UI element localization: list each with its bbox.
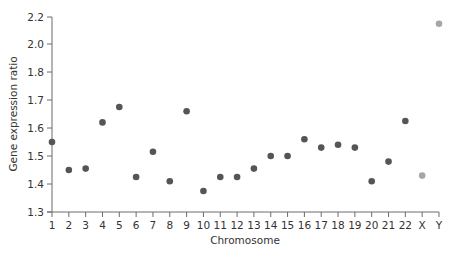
x-tick-label: 15 <box>281 219 294 231</box>
x-tick-label: 2 <box>65 219 72 231</box>
x-tick-label: 19 <box>348 219 361 231</box>
data-point-chr-7 <box>150 149 157 156</box>
x-tick-label: 21 <box>382 219 395 231</box>
y-axis: 1.31.41.51.61.71.82.02.2 <box>27 11 52 218</box>
y-tick-label: 1.5 <box>27 150 44 162</box>
y-axis-title: Gene expression ratio <box>7 56 19 171</box>
x-tick-label: 10 <box>197 219 210 231</box>
x-tick-label: 13 <box>247 219 260 231</box>
x-tick-label: 20 <box>365 219 378 231</box>
x-tick-label: Y <box>435 219 443 231</box>
data-point-chr-9 <box>183 108 190 115</box>
data-point-chr-15 <box>284 153 291 160</box>
data-point-chr-11 <box>217 174 224 181</box>
data-points <box>49 20 443 194</box>
data-point-chr-12 <box>234 174 241 181</box>
x-tick-label: 17 <box>315 219 328 231</box>
data-point-chr-18 <box>335 142 342 149</box>
x-tick-label: 3 <box>82 219 89 231</box>
x-axis: 12345678910111213141516171819202122XY <box>47 212 443 231</box>
y-tick-label: 1.6 <box>27 122 44 134</box>
x-tick-label: 8 <box>166 219 173 231</box>
y-tick-label: 1.7 <box>27 94 44 106</box>
data-point-chr-20 <box>368 178 375 185</box>
y-tick-label: 2.2 <box>27 11 44 23</box>
y-tick-label: 1.3 <box>27 206 44 218</box>
data-point-chr-14 <box>267 153 274 160</box>
y-tick-label: 2.0 <box>27 38 44 50</box>
x-tick-label: X <box>419 219 426 231</box>
data-point-chr-1 <box>49 139 56 146</box>
data-point-chr-4 <box>99 119 106 126</box>
x-axis-title: Chromosome <box>210 234 280 246</box>
data-point-chr-10 <box>200 188 207 195</box>
x-tick-label: 9 <box>183 219 190 231</box>
scatter-chart: 1.31.41.51.61.71.82.02.2 123456789101112… <box>0 0 456 258</box>
x-tick-label: 6 <box>133 219 140 231</box>
data-point-chr-16 <box>301 136 308 143</box>
data-point-chr-13 <box>251 165 258 172</box>
data-point-chr-17 <box>318 144 325 151</box>
data-point-chr-3 <box>82 165 89 172</box>
x-tick-label: 7 <box>150 219 157 231</box>
data-point-chr-8 <box>166 178 173 185</box>
data-point-chr-Y <box>436 20 443 27</box>
x-tick-label: 11 <box>214 219 227 231</box>
data-point-chr-2 <box>66 167 73 174</box>
x-tick-label: 5 <box>116 219 123 231</box>
y-tick-label: 1.4 <box>27 178 44 190</box>
x-tick-label: 12 <box>230 219 243 231</box>
x-tick-label: 22 <box>399 219 412 231</box>
x-tick-label: 1 <box>49 219 56 231</box>
data-point-chr-21 <box>385 158 392 165</box>
y-tick-label: 1.8 <box>27 66 44 78</box>
data-point-chr-5 <box>116 104 123 111</box>
data-point-chr-6 <box>133 174 140 181</box>
x-tick-label: 14 <box>264 219 278 231</box>
data-point-chr-19 <box>352 144 359 151</box>
data-point-chr-X <box>419 172 426 179</box>
data-point-chr-22 <box>402 118 409 125</box>
x-tick-label: 18 <box>331 219 344 231</box>
x-tick-label: 4 <box>99 219 106 231</box>
x-tick-label: 16 <box>298 219 312 231</box>
